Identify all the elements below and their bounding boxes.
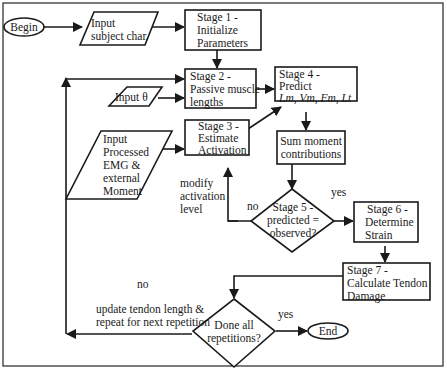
stage7-line1: Stage 7 - xyxy=(347,264,388,277)
stage2-line2: Passive muscle xyxy=(190,83,260,95)
stage5-line1: Stage 5 - xyxy=(273,201,314,214)
begin-label: Begin xyxy=(10,21,38,34)
stage5-yes-label: yes xyxy=(331,186,347,199)
begin-terminal: Begin xyxy=(4,18,44,36)
stage1-line2: Initialize xyxy=(197,24,238,36)
sum-moment-line1: Sum moment xyxy=(280,135,342,147)
done-all-line1: Done all xyxy=(214,319,253,331)
flowchart-canvas: Begin Input subject char. Stage 1 - Init… xyxy=(0,0,447,369)
done-all-line2: repetitions? xyxy=(207,332,261,345)
stage1-line3: Parameters xyxy=(197,37,249,49)
stage6-line2: Determine xyxy=(365,216,414,228)
done-yes-label: yes xyxy=(278,308,294,321)
done-no-label: no xyxy=(137,278,149,290)
modify-label-line2: activation xyxy=(180,190,226,202)
stage3-node: Stage 3 - Estimate Activation xyxy=(185,120,249,156)
input-subject-node: Input subject char. xyxy=(80,12,158,45)
stage1-node: Stage 1 - Initialize Parameters xyxy=(185,10,261,50)
stage3-line3: Activation xyxy=(198,144,247,156)
stage1-line1: Stage 1 - xyxy=(197,11,238,24)
sum-moment-line2: contributions xyxy=(281,148,342,160)
stage2-node: Stage 2 - Passive muscle lengths xyxy=(185,69,260,109)
input-subject-line1: Input xyxy=(91,17,116,30)
end-terminal: End xyxy=(308,323,348,339)
stage5-line2: predicted = xyxy=(267,214,319,227)
input-emg-line3: EMG & xyxy=(103,159,140,171)
stage2-line1: Stage 2 - xyxy=(190,70,231,83)
stage6-line3: Strain xyxy=(365,229,393,241)
modify-label-line1: modify xyxy=(180,177,213,190)
stage5-line3: observed? xyxy=(270,227,317,239)
stage2-line3: lengths xyxy=(190,96,224,109)
update-label-line2: repeat for next repetition xyxy=(96,316,210,329)
stage7-line3: Damage xyxy=(347,290,385,303)
stage4-line2: Predict xyxy=(279,80,312,92)
end-label: End xyxy=(319,325,338,337)
stage6-line1: Stage 6 - xyxy=(367,203,408,216)
update-label-line1: update tendon length & xyxy=(96,303,204,316)
modify-label-line3: level xyxy=(180,203,202,215)
stage3-line2: Estimate xyxy=(198,132,238,144)
stage7-node: Stage 7 - Calculate Tendon Damage xyxy=(343,263,430,303)
input-emg-line5: Moment xyxy=(103,185,143,197)
input-emg-line4: external xyxy=(103,172,140,184)
input-emg-line2: Processed xyxy=(103,146,149,158)
input-subject-line2: subject char. xyxy=(91,30,149,43)
stage5-no-label: no xyxy=(247,200,259,212)
input-emg-line1: Input xyxy=(103,133,128,146)
sum-moment-node: Sum moment contributions xyxy=(277,131,345,164)
stage7-line2: Calculate Tendon xyxy=(347,277,428,289)
input-theta-label: Input θ xyxy=(115,91,148,104)
stage4-line3: Lm, Vm, Fm, Lt xyxy=(278,92,352,105)
stage6-node: Stage 6 - Determine Strain xyxy=(354,202,418,242)
stage4-node: Stage 4 - Predict Lm, Vm, Fm, Lt xyxy=(275,67,357,105)
